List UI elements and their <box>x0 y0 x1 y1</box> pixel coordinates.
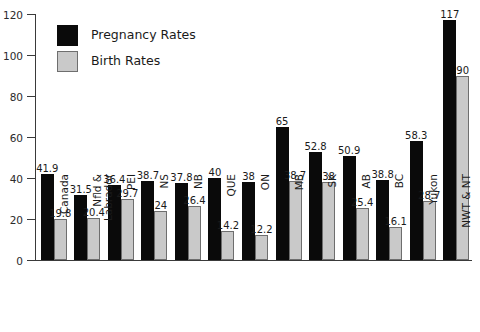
x-axis-label: NWT & NT <box>461 174 472 264</box>
bar-value-label: 65 <box>276 117 289 127</box>
bar-value-label: 41.9 <box>36 164 58 174</box>
bar-chart: 020406080100120 41.919.831.520.436.429.7… <box>0 0 480 332</box>
bar-value-label: 38 <box>242 172 255 182</box>
x-axis-label: SK <box>327 174 338 264</box>
chart-legend: Pregnancy Rates Birth Rates <box>57 22 196 74</box>
bar-value-label: 38.8 <box>372 170 394 180</box>
y-axis-tick: 60 <box>27 137 35 138</box>
bar-pregnancy: 38.7 <box>141 181 154 260</box>
bar-value-label: 31.5 <box>70 185 92 195</box>
legend-label-pregnancy: Pregnancy Rates <box>91 29 196 42</box>
x-axis-label: AB <box>361 174 372 264</box>
x-axis-label: NB <box>193 174 204 264</box>
legend-label-birth: Birth Rates <box>91 55 160 68</box>
bar-value-label: 58.3 <box>405 131 427 141</box>
bar-pregnancy: 117 <box>443 20 456 260</box>
y-axis-tick-label: 80 <box>10 91 23 102</box>
y-axis-tick: 120 <box>27 14 35 15</box>
y-axis-tick: 0 <box>27 260 35 261</box>
x-axis-label: NS <box>159 174 170 264</box>
y-axis-tick: 100 <box>27 55 35 56</box>
y-axis-tick-label: 0 <box>16 255 23 266</box>
x-axis-label: Yukon <box>428 174 439 264</box>
y-axis-tick-label: 60 <box>10 132 23 143</box>
y-axis-tick: 40 <box>27 178 35 179</box>
y-axis-tick-label: 100 <box>3 50 23 61</box>
bar-pregnancy: 65 <box>276 127 289 260</box>
y-axis-tick-label: 40 <box>10 173 23 184</box>
y-axis-tick-label: 20 <box>10 214 23 225</box>
x-axis-label: BC <box>394 174 405 264</box>
bar-value-label: 90 <box>456 66 469 76</box>
bar-value-label: 38.7 <box>137 171 159 181</box>
bar-pregnancy: 31.5 <box>74 195 87 260</box>
bar-value-label: 52.8 <box>304 142 326 152</box>
x-axis-label: ON <box>260 174 271 264</box>
bar-pregnancy: 38 <box>242 182 255 260</box>
y-axis-tick: 80 <box>27 96 35 97</box>
legend-item-pregnancy-rates: Pregnancy Rates <box>57 22 196 48</box>
legend-swatch-birth-icon <box>57 51 78 72</box>
bar-pregnancy: 52.8 <box>309 152 322 260</box>
bar-value-label: 117 <box>440 10 459 20</box>
legend-swatch-pregnancy-icon <box>57 25 78 46</box>
bar-value-label: 40 <box>209 168 222 178</box>
x-axis-label: QUE <box>226 174 237 264</box>
bar-value-label: 37.8 <box>170 173 192 183</box>
x-axis-label: MB <box>294 174 305 264</box>
x-axis-label: Canada <box>59 174 70 264</box>
legend-item-birth-rates: Birth Rates <box>57 48 196 74</box>
y-axis-tick-label: 120 <box>3 9 23 20</box>
x-axis-label: PEI <box>126 174 137 264</box>
x-axis-label: Nfld & Labrador <box>92 174 114 264</box>
bar-value-label: 50.9 <box>338 146 360 156</box>
y-axis-tick: 20 <box>27 219 35 220</box>
